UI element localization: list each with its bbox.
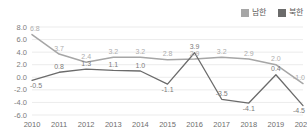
x-axis-tick-label: 2016 bbox=[186, 120, 203, 129]
y-axis-tick-label: 4.0 bbox=[17, 48, 27, 57]
data-point-label: 1.0 bbox=[136, 62, 146, 69]
y-axis-tick-label: -6.0 bbox=[14, 111, 27, 120]
x-axis-tick-label: 2015 bbox=[159, 120, 176, 129]
data-point-label: 2.0 bbox=[271, 55, 281, 62]
data-point-label: 3.7 bbox=[54, 45, 64, 52]
data-point-label: 1.1 bbox=[108, 61, 118, 68]
legend-swatch-icon bbox=[241, 9, 249, 17]
data-point-label: 3.9 bbox=[190, 43, 200, 50]
x-axis-tick-label: 2013 bbox=[105, 120, 122, 129]
data-point-label: 2.8 bbox=[163, 50, 173, 57]
data-point-label: -1.0 bbox=[293, 74, 305, 81]
data-point-label: 1.3 bbox=[81, 60, 91, 67]
data-point-label: 2.9 bbox=[244, 50, 254, 57]
chart-container: 남한 북한 8.06.04.02.00.0-2.0-4.0-6.02010201… bbox=[0, 0, 307, 137]
x-axis-tick-label: 2012 bbox=[78, 120, 95, 129]
data-point-label: -4.1 bbox=[243, 105, 255, 112]
y-axis-tick-label: 2.0 bbox=[17, 60, 27, 69]
x-axis-tick-label: 2014 bbox=[132, 120, 149, 129]
data-point-label: 2.9 bbox=[190, 50, 200, 57]
y-axis-tick-label: -4.0 bbox=[14, 98, 27, 107]
y-axis-tick-label: -2.0 bbox=[14, 85, 27, 94]
x-axis-tick-label: 2010 bbox=[24, 120, 41, 129]
y-axis-tick-label: 0.0 bbox=[17, 73, 27, 82]
legend-item-north-korea[interactable]: 북한 bbox=[278, 6, 303, 19]
legend-item-south-korea[interactable]: 남한 bbox=[241, 6, 266, 19]
x-axis-tick-label: 2020 bbox=[295, 120, 307, 129]
y-axis-tick-label: 8.0 bbox=[17, 23, 27, 32]
x-axis-tick-label: 2019 bbox=[268, 120, 285, 129]
chart-legend: 남한 북한 bbox=[241, 6, 303, 19]
data-point-label: -4.5 bbox=[293, 107, 305, 114]
data-point-label: 3.2 bbox=[108, 48, 118, 55]
x-axis-tick-label: 2018 bbox=[240, 120, 257, 129]
x-axis-tick-label: 2011 bbox=[51, 120, 67, 129]
legend-swatch-icon bbox=[278, 9, 286, 17]
y-axis-tick-label: 6.0 bbox=[17, 35, 27, 44]
x-axis-tick-label: 2017 bbox=[213, 120, 230, 129]
data-point-label: -3.5 bbox=[216, 90, 228, 97]
data-point-label: 0.8 bbox=[54, 63, 64, 70]
legend-label: 남한 bbox=[252, 8, 266, 17]
data-point-label: -0.5 bbox=[30, 82, 42, 89]
data-point-label: -1.1 bbox=[161, 86, 173, 93]
plot-area: 8.06.04.02.00.0-2.0-4.0-6.02010201120122… bbox=[0, 22, 307, 137]
legend-label: 북한 bbox=[289, 8, 303, 17]
series-line-south-korea bbox=[32, 35, 303, 84]
data-point-label: 3.2 bbox=[136, 48, 146, 55]
series-line-north-korea bbox=[32, 53, 303, 106]
data-point-label: 0.4 bbox=[271, 65, 281, 72]
line-chart-svg: 8.06.04.02.00.0-2.0-4.0-6.02010201120122… bbox=[0, 22, 307, 137]
data-point-label: 3.2 bbox=[217, 48, 227, 55]
data-point-label: 6.8 bbox=[30, 25, 40, 32]
